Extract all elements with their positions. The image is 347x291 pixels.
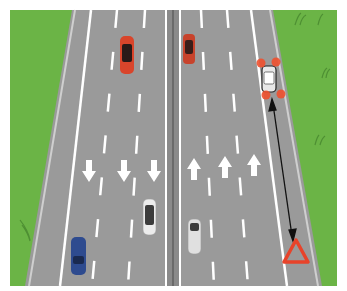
hazard-light-icon <box>277 90 286 99</box>
white-car-left-carriageway <box>143 199 156 235</box>
hazard-light-icon <box>257 59 266 68</box>
white-car-right-carriageway <box>188 219 201 254</box>
blue-car-left-carriageway <box>71 237 86 275</box>
hazard-light-icon <box>262 91 271 100</box>
hazard-light-icon <box>272 58 281 67</box>
red-car-left-carriageway <box>120 36 134 74</box>
red-car-right-carriageway <box>183 34 195 64</box>
road-scene <box>0 0 347 291</box>
